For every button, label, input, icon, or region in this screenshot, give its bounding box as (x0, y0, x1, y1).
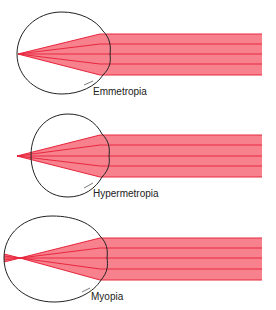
panel-myopia: Myopia (4, 216, 262, 302)
converging-cone (20, 238, 100, 280)
label-leader (84, 81, 93, 85)
label-leader (84, 183, 93, 188)
panel-emmetropia: Emmetropia (17, 12, 262, 97)
label-myopia: Myopia (91, 291, 124, 302)
label-emmetropia: Emmetropia (93, 86, 147, 97)
label-leader (82, 288, 90, 292)
refraction-diagram: Emmetropia Hypermetropia Myopia (0, 0, 276, 310)
panel-hypermetropia: Hypermetropia (17, 114, 262, 199)
light-beam (100, 238, 262, 280)
label-hypermetropia: Hypermetropia (93, 188, 159, 199)
